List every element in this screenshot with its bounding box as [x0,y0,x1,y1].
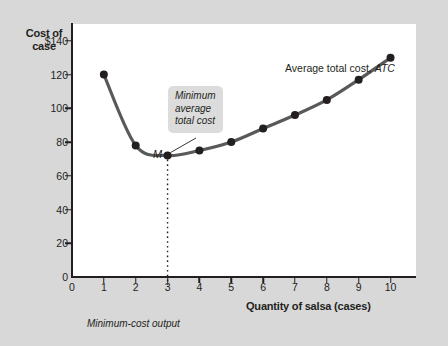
x-axis-line [71,276,416,278]
y-axis-tick-mark [65,175,72,177]
x-axis-tick-mark [262,277,264,283]
y-axis-tick-mark [65,209,72,211]
x-axis-tick-mark [199,277,201,283]
x-axis-tick-mark [135,277,137,283]
minimum-average-total-cost-callout: Minimum average total cost [168,86,223,133]
chart-figure: Cost of case Quantity of salsa (cases) 0… [0,0,448,346]
y-axis-tick-mark [65,141,72,143]
series-legend-label: Average total cost, ATC [285,62,395,74]
x-axis-tick-mark [231,277,233,283]
y-axis-tick-label: 120 [0,69,68,81]
y-axis-tick-mark [65,40,72,42]
x-axis-tick-mark [390,277,392,283]
series-legend-symbol: ATC [375,62,395,74]
x-axis-tick-mark [167,277,169,283]
y-axis-tick-label: 0 [0,271,68,283]
x-axis-tick-mark [103,277,105,283]
minimum-cost-output-note: Minimum-cost output [87,318,180,329]
x-axis-tick-mark [358,277,360,283]
y-axis-tick-label: 80 [0,136,68,148]
x-axis-tick-label: 0 [69,281,75,293]
x-axis-tick-mark [294,277,296,283]
y-axis-tick-label: 60 [0,170,68,182]
x-axis-title: Quantity of salsa (cases) [246,300,371,312]
callout-line-3: total cost [175,115,216,128]
callout-line-2: average [175,103,216,116]
callout-line-1: Minimum [175,90,216,103]
y-axis-tick-label: 20 [0,237,68,249]
y-axis-tick-label: 40 [0,204,68,216]
y-axis-tick-label: 100 [0,102,68,114]
y-axis-tick-mark [65,243,72,245]
y-axis-tick-mark [65,108,72,110]
x-axis-tick-mark [326,277,328,283]
minimum-point-marker-label: M [153,148,162,160]
y-axis-tick-label: $140 [0,35,68,47]
series-legend-prefix: Average total cost, [285,62,372,74]
y-axis-tick-mark [65,74,72,76]
y-axis-line [71,23,73,278]
